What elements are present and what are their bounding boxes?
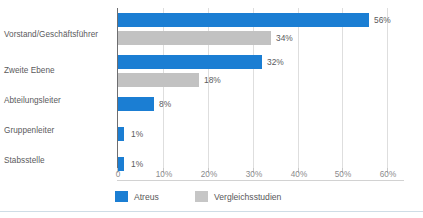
category-label-zweite-ebene: Zweite Ebene xyxy=(4,66,110,76)
bar-vergleich-vorstand[interactable] xyxy=(118,31,271,45)
bar-label-vergleich-vorstand: 34% xyxy=(276,31,293,45)
category-label-stabsstelle: Stabsstelle xyxy=(4,156,110,166)
bar-label-atreus-gruppenleiter: 1% xyxy=(131,127,143,141)
x-tick-label-10: 10% xyxy=(156,170,172,179)
x-axis-line xyxy=(117,180,404,181)
legend-item-atreus[interactable]: Atreus xyxy=(115,191,159,202)
legend-swatch-icon-vergleichsstudien xyxy=(195,191,208,202)
bar-label-atreus-vorstand: 56% xyxy=(374,13,391,27)
bars-layer: 56% 34% 32% 18% 8% 1% 1% xyxy=(118,8,393,168)
legend-label-atreus: Atreus xyxy=(134,192,159,202)
bar-label-atreus-zweite-ebene: 32% xyxy=(267,55,284,69)
bar-label-vergleich-zweite-ebene: 18% xyxy=(204,73,221,87)
legend-item-vergleichsstudien[interactable]: Vergleichsstudien xyxy=(195,191,281,202)
x-tick-label-40: 40% xyxy=(291,170,307,179)
x-tick-label-30: 30% xyxy=(246,170,262,179)
legend-label-vergleichsstudien: Vergleichsstudien xyxy=(214,192,281,202)
x-tick-label-0: 0 xyxy=(116,170,121,179)
legend-swatch-icon-atreus xyxy=(115,191,128,202)
x-tick-label-20: 20% xyxy=(201,170,217,179)
category-label-gruppenleiter: Gruppenleiter xyxy=(4,126,110,136)
x-tick-label-50: 50% xyxy=(335,170,351,179)
bar-vergleich-zweite-ebene[interactable] xyxy=(118,73,199,87)
x-tick-label-60: 60% xyxy=(380,170,396,179)
bar-chart: Vorstand/Geschäftsführer Zweite Ebene Ab… xyxy=(0,0,423,218)
y-axis-line xyxy=(117,8,118,172)
footer-divider xyxy=(0,211,423,212)
bar-label-atreus-stabsstelle: 1% xyxy=(131,157,143,171)
bar-label-atreus-abteilungsleiter: 8% xyxy=(159,97,171,111)
bar-atreus-stabsstelle[interactable] xyxy=(118,157,124,171)
category-axis-labels: Vorstand/Geschäftsführer Zweite Ebene Ab… xyxy=(0,8,112,168)
bar-atreus-vorstand[interactable] xyxy=(118,13,369,27)
chart-legend: Atreus Vergleichsstudien xyxy=(0,190,423,206)
category-label-abteilungsleiter: Abteilungsleiter xyxy=(4,96,110,106)
bar-atreus-gruppenleiter[interactable] xyxy=(118,127,124,141)
bar-atreus-abteilungsleiter[interactable] xyxy=(118,97,154,111)
bar-atreus-zweite-ebene[interactable] xyxy=(118,55,262,69)
category-label-vorstand: Vorstand/Geschäftsführer xyxy=(4,30,110,40)
plot-area: Vorstand/Geschäftsführer Zweite Ebene Ab… xyxy=(0,0,423,182)
